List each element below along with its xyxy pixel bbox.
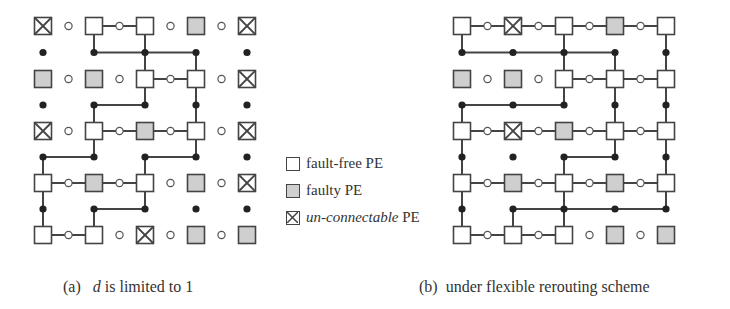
bus-node-icon xyxy=(458,205,465,212)
bus-node-icon xyxy=(39,101,46,108)
switch-icon xyxy=(65,75,72,82)
fault-free-pe-icon xyxy=(286,157,300,171)
switch-icon xyxy=(167,127,174,134)
faulty-pe-icon xyxy=(239,227,256,244)
switch-icon xyxy=(116,231,123,238)
bus-node-icon xyxy=(90,205,97,212)
unconnectable-pe-icon xyxy=(505,18,522,35)
fault-free-pe-icon xyxy=(556,175,573,192)
fault-free-pe-icon xyxy=(86,227,103,244)
legend-faulty: faulty PE xyxy=(286,182,362,199)
switch-icon xyxy=(167,75,174,82)
unconnectable-pe-icon xyxy=(505,123,522,140)
mesh-grid-a xyxy=(35,18,256,244)
switch-icon xyxy=(484,127,491,134)
switch-icon xyxy=(116,75,123,82)
bus-node-icon xyxy=(39,49,46,56)
faulty-pe-icon xyxy=(86,71,103,88)
legend-label: un-connectable PE xyxy=(306,209,420,226)
faulty-pe-icon xyxy=(556,123,573,140)
switch-icon xyxy=(116,22,123,29)
fault-free-pe-icon xyxy=(137,18,154,35)
fault-free-pe-icon xyxy=(454,123,471,140)
faulty-pe-icon xyxy=(35,71,52,88)
faulty-pe-icon xyxy=(607,175,624,192)
switch-icon xyxy=(65,231,72,238)
fault-free-pe-icon xyxy=(658,71,675,88)
faulty-pe-icon xyxy=(505,71,522,88)
switch-icon xyxy=(535,231,542,238)
unconnectable-pe-icon xyxy=(239,175,256,192)
bus-node-icon xyxy=(192,153,199,160)
fault-free-pe-icon xyxy=(505,227,522,244)
switch-icon xyxy=(637,179,644,186)
bus-node-icon xyxy=(39,153,46,160)
bus-node-icon xyxy=(560,101,567,108)
switch-icon xyxy=(586,75,593,82)
fault-free-pe-icon xyxy=(454,227,471,244)
faulty-pe-icon xyxy=(188,18,205,35)
fault-free-pe-icon xyxy=(658,18,675,35)
faulty-pe-icon xyxy=(86,175,103,192)
faulty-pe-icon xyxy=(607,227,624,244)
bus-node-icon xyxy=(458,101,465,108)
fault-free-pe-icon xyxy=(86,123,103,140)
bus-node-icon xyxy=(662,49,669,56)
caption-a: (a) d is limited to 1 xyxy=(63,278,193,296)
switch-icon xyxy=(586,231,593,238)
bus-node-icon xyxy=(243,49,250,56)
fault-free-pe-icon xyxy=(607,71,624,88)
bus-node-icon xyxy=(611,49,618,56)
legend-fault-free: fault-free PE xyxy=(286,155,383,172)
bus-node-icon xyxy=(39,205,46,212)
fault-free-pe-icon xyxy=(137,175,154,192)
switch-icon xyxy=(167,22,174,29)
bus-node-icon xyxy=(243,101,250,108)
faulty-pe-icon xyxy=(658,227,675,244)
switch-icon xyxy=(65,127,72,134)
bus-node-icon xyxy=(662,101,669,108)
switch-icon xyxy=(65,22,72,29)
faulty-pe-icon xyxy=(188,175,205,192)
unconnectable-pe-icon xyxy=(35,18,52,35)
switch-icon xyxy=(218,75,225,82)
unconnectable-pe-icon xyxy=(286,211,300,225)
bus-node-icon xyxy=(141,205,148,212)
bus-node-icon xyxy=(141,49,148,56)
unconnectable-pe-icon xyxy=(239,71,256,88)
switch-icon xyxy=(65,179,72,186)
fault-free-pe-icon xyxy=(188,71,205,88)
bus-node-icon xyxy=(90,153,97,160)
bus-node-icon xyxy=(458,49,465,56)
legend-label: fault-free PE xyxy=(306,155,383,172)
faulty-pe-icon xyxy=(607,18,624,35)
bus-node-icon xyxy=(662,205,669,212)
switch-icon xyxy=(484,22,491,29)
switch-icon xyxy=(116,127,123,134)
faulty-pe-icon xyxy=(286,184,300,198)
bus-node-icon xyxy=(611,101,618,108)
fault-free-pe-icon xyxy=(454,18,471,35)
switch-icon xyxy=(586,179,593,186)
switch-icon xyxy=(535,179,542,186)
bus-node-icon xyxy=(141,153,148,160)
unconnectable-pe-icon xyxy=(35,123,52,140)
switch-icon xyxy=(586,22,593,29)
fault-free-pe-icon xyxy=(35,227,52,244)
switch-icon xyxy=(218,22,225,29)
switch-icon xyxy=(167,231,174,238)
unconnectable-pe-icon xyxy=(239,123,256,140)
switch-icon xyxy=(167,179,174,186)
bus-node-icon xyxy=(662,153,669,160)
switch-icon xyxy=(218,179,225,186)
switch-icon xyxy=(637,22,644,29)
bus-node-icon xyxy=(192,205,199,212)
bus-node-icon xyxy=(192,49,199,56)
bus-node-icon xyxy=(458,153,465,160)
fault-free-pe-icon xyxy=(86,18,103,35)
switch-icon xyxy=(218,127,225,134)
switch-icon xyxy=(116,179,123,186)
bus-node-icon xyxy=(509,101,516,108)
bus-node-icon xyxy=(560,49,567,56)
fault-free-pe-icon xyxy=(556,71,573,88)
